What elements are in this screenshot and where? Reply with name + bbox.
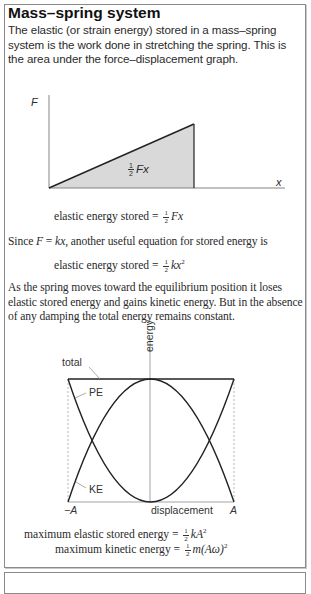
- graph1-x-label: x: [276, 176, 282, 188]
- graph2-y-label: energy: [143, 320, 155, 352]
- ke-label: KE: [89, 483, 103, 495]
- graph2-x-label: displacement: [151, 504, 213, 516]
- since-paragraph: Since F = kx, another useful equation fo…: [8, 235, 303, 250]
- area-label: 12Fx: [126, 162, 149, 177]
- pe-leader: [75, 393, 86, 398]
- ke-leader: [76, 482, 86, 488]
- graph1-y-label: F: [31, 96, 38, 108]
- neg-amplitude-label: −A: [64, 504, 77, 516]
- equation-max-pe: maximum elastic stored energy = 12kA2: [24, 527, 207, 543]
- pe-label: PE: [89, 386, 103, 398]
- pos-amplitude-label: A: [230, 504, 237, 516]
- equation-max-ke: maximum kinetic energy = 12m(Aω)2: [55, 542, 227, 558]
- equation-elastic-fx: elastic energy stored = 12Fx: [54, 210, 183, 225]
- total-label: total: [62, 356, 82, 368]
- energy-paragraph: As the spring moves toward the equilibri…: [8, 281, 303, 325]
- equation-elastic-kx2: elastic energy stored = 12kx2: [54, 258, 185, 274]
- total-leader: [89, 367, 100, 379]
